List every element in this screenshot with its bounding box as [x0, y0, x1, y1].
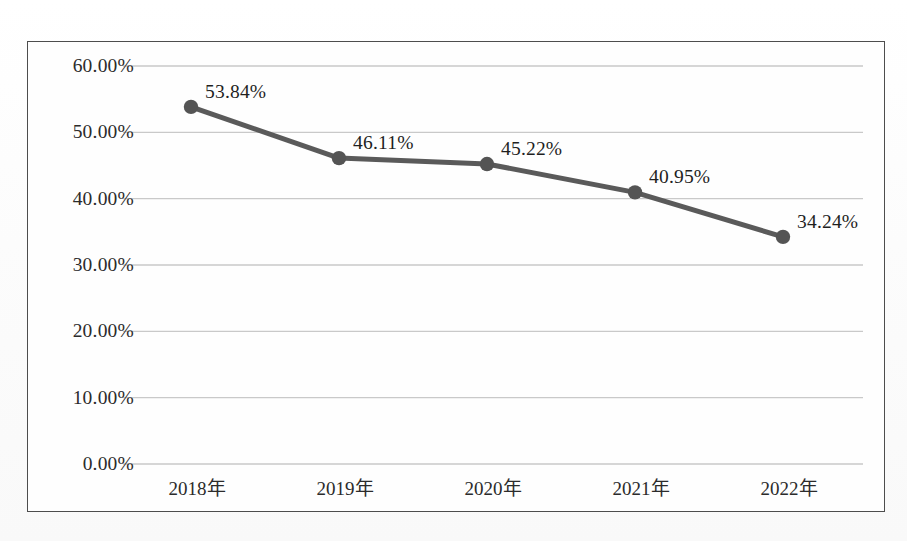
data-point-value-label: 34.24%: [797, 211, 858, 233]
data-point-labels: 53.84%46.11%45.22%40.95%34.24%: [28, 42, 886, 513]
chart-frame: 60.00%50.00%40.00%30.00%20.00%10.00%0.00…: [27, 41, 885, 512]
plot-area: 60.00%50.00%40.00%30.00%20.00%10.00%0.00…: [28, 42, 886, 513]
data-point-value-label: 53.84%: [205, 81, 266, 103]
data-point-value-label: 46.11%: [353, 132, 414, 154]
data-point-value-label: 45.22%: [501, 138, 562, 160]
data-point-value-label: 40.95%: [649, 166, 710, 188]
